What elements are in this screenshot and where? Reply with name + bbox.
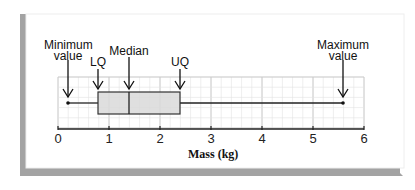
x-tick-label: 4: [255, 131, 269, 146]
x-tick-label: 0: [51, 131, 65, 146]
x-tick-label: 5: [306, 131, 320, 146]
frame-left-shadow: [20, 14, 26, 176]
median-label: Median: [108, 46, 150, 57]
x-tick-label: 1: [102, 131, 116, 146]
frame-bottom-shadow: [20, 168, 400, 176]
lq-label: LQ: [88, 57, 108, 68]
chart-frame: Minimum value LQ Median UQ Maximum value…: [0, 0, 415, 190]
min-label-line2: value: [44, 51, 92, 62]
uq-label: UQ: [170, 57, 190, 68]
min-label: Minimum value: [44, 40, 92, 62]
x-tick-label: 3: [204, 131, 218, 146]
iqr-box: [98, 92, 180, 114]
max-label-line2: value: [316, 51, 370, 62]
x-tick-label: 2: [153, 131, 167, 146]
x-axis-label: Mass (kg): [188, 147, 238, 162]
minimum-point: [66, 101, 70, 105]
maximum-point: [341, 101, 345, 105]
max-label: Maximum value: [316, 40, 370, 62]
x-tick-label: 6: [357, 131, 371, 146]
